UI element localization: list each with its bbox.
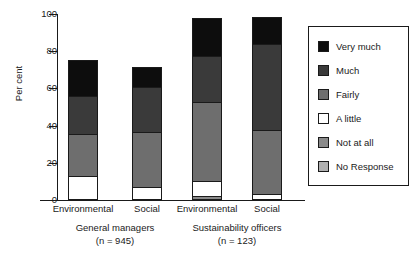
group-label-name: Sustainability officers bbox=[192, 221, 281, 234]
x-axis-label: Environmental bbox=[53, 203, 114, 214]
bar-segment bbox=[68, 176, 98, 200]
legend-swatch bbox=[318, 113, 329, 124]
group-label: Sustainability officers(n = 123) bbox=[192, 221, 281, 247]
legend-item[interactable]: Not at all bbox=[318, 130, 408, 154]
bar-segment bbox=[132, 87, 162, 134]
bar-stack bbox=[252, 17, 282, 200]
bar-segment bbox=[192, 56, 222, 103]
bar-stack bbox=[68, 60, 98, 200]
legend-swatch bbox=[318, 89, 329, 100]
bar-segment bbox=[68, 134, 98, 177]
bar-stack bbox=[192, 18, 222, 200]
legend-item[interactable]: A little bbox=[318, 106, 408, 130]
bar-segment bbox=[192, 102, 222, 182]
legend-item[interactable]: Very much bbox=[318, 34, 408, 58]
legend-label: A little bbox=[336, 113, 361, 124]
bar-segment bbox=[192, 196, 222, 200]
stacked-bar-chart: Per cent 100806040200 EnvironmentalSocia… bbox=[0, 0, 418, 262]
bar-segment bbox=[252, 17, 282, 45]
x-axis-label: Social bbox=[134, 203, 160, 214]
legend-swatch bbox=[318, 41, 329, 52]
legend-label: Not at all bbox=[336, 137, 374, 148]
bar-segment bbox=[252, 194, 282, 200]
x-axis-label: Social bbox=[254, 203, 280, 214]
legend: Very muchMuchFairlyA littleNot at allNo … bbox=[308, 26, 409, 186]
group-label-count: (n = 123) bbox=[192, 234, 281, 247]
group-label-count: (n = 945) bbox=[76, 234, 155, 247]
legend-label: Very much bbox=[336, 41, 381, 52]
legend-item[interactable]: No Response bbox=[318, 154, 408, 178]
bar-segment bbox=[192, 18, 222, 57]
bar-segment bbox=[132, 132, 162, 188]
bar-segment bbox=[68, 96, 98, 135]
bar-segment bbox=[252, 130, 282, 195]
legend-label: Fairly bbox=[336, 89, 359, 100]
bar-segment bbox=[252, 44, 282, 131]
bar-stack bbox=[132, 67, 162, 200]
bar-segment bbox=[132, 67, 162, 87]
legend-label: No Response bbox=[336, 161, 394, 172]
group-label-name: General managers bbox=[76, 221, 155, 234]
legend-swatch bbox=[318, 161, 329, 172]
x-axis-label: Environmental bbox=[177, 203, 238, 214]
legend-swatch bbox=[318, 65, 329, 76]
legend-swatch bbox=[318, 137, 329, 148]
legend-item[interactable]: Much bbox=[318, 58, 408, 82]
group-label: General managers(n = 945) bbox=[76, 221, 155, 247]
legend-label: Much bbox=[336, 65, 359, 76]
bar-segment bbox=[68, 60, 98, 97]
bar-segment bbox=[192, 181, 222, 198]
legend-item[interactable]: Fairly bbox=[318, 82, 408, 106]
bar-segment bbox=[132, 187, 162, 200]
